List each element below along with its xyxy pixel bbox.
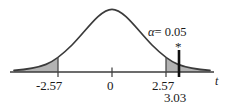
tick-label-zero: 0 xyxy=(107,78,113,94)
test-statistic-label: 3.03 xyxy=(164,90,186,106)
x-axis-label: t xyxy=(215,74,218,89)
chart-canvas xyxy=(0,0,232,108)
test-statistic-star: * xyxy=(175,40,182,53)
alpha-annotation: α= 0.05 xyxy=(148,25,187,40)
t-distribution-chart: * α= 0.05 -2.57 0 2.57 3.03 t xyxy=(0,0,232,108)
tick-label-negative: -2.57 xyxy=(36,78,62,94)
alpha-value: = 0.05 xyxy=(155,25,187,39)
